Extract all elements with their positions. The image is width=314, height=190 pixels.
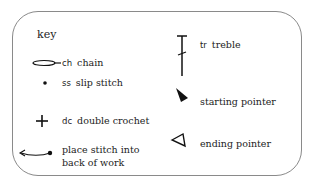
slip-stitch-label: slip stitch [76,77,123,88]
double-crochet-plus-icon [35,114,49,128]
starting-pointer-label: starting pointer [200,96,276,107]
double-crochet-label: double crochet [77,115,149,126]
treble-icon [175,34,189,78]
chain-abbr: ch [62,58,72,68]
chain-label: chain [77,57,103,68]
slip-stitch-abbr: ss [62,78,71,88]
treble-abbr: tr [200,40,207,50]
chain-oval-icon [32,58,62,68]
chain-legend: chchain [62,57,103,69]
back-of-work-line1: place stitch into [62,144,139,155]
slip-stitch-legend: ssslip stitch [62,77,123,89]
back-of-work-arrow-icon [18,148,54,160]
treble-legend: trtreble [200,39,241,51]
treble-label: treble [212,39,241,50]
starting-pointer-icon [172,86,190,104]
key-title: key [37,29,56,40]
ending-pointer-label: ending pointer [200,138,271,149]
back-of-work-line2: back of work [62,157,124,168]
double-crochet-legend: dcdouble crochet [62,115,149,127]
slip-stitch-dot-icon [42,80,48,86]
ending-pointer-icon [170,132,188,148]
double-crochet-abbr: dc [62,116,72,126]
